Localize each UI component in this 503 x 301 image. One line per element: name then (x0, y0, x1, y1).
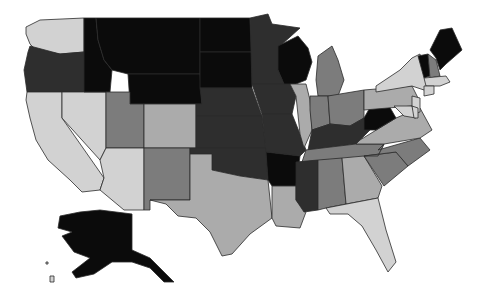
state-al (318, 158, 346, 210)
state-layer (24, 14, 462, 282)
state-wi (278, 36, 312, 84)
state-fl (326, 198, 396, 272)
state-nd (200, 18, 252, 52)
state-sd (200, 52, 252, 88)
state-mt (96, 18, 200, 74)
state-az (100, 148, 144, 210)
state-or (24, 46, 84, 92)
state-ct (424, 86, 434, 96)
state-hi1 (50, 276, 54, 282)
state-ar (266, 152, 300, 186)
state-hi2 (46, 262, 48, 264)
state-ms (296, 160, 318, 212)
state-ma (424, 76, 450, 86)
us-choropleth-map (0, 0, 503, 301)
state-ks (196, 116, 266, 148)
state-ak (58, 210, 174, 282)
state-wy (128, 74, 202, 104)
state-mi (316, 46, 344, 96)
state-co (144, 104, 196, 148)
state-ne (196, 88, 262, 116)
state-oh (328, 90, 364, 126)
